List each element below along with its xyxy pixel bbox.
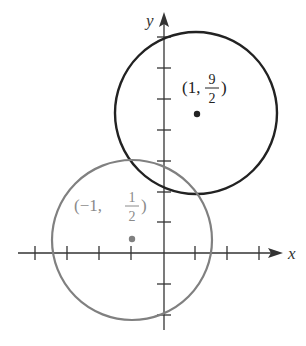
svg-text:1: 1 (129, 190, 136, 205)
x-axis-label: x (287, 244, 296, 263)
svg-text:): ) (141, 196, 147, 215)
black-center-label: (1, 9 2 ) (182, 72, 227, 106)
gray-center-label: (−1, 1 2 ) (74, 190, 147, 224)
coordinate-diagram: x y (1, 9 2 ) (−1, 1 2 ) (0, 0, 306, 346)
svg-text:): ) (221, 78, 227, 97)
y-axis-label: y (144, 11, 154, 30)
y-axis (157, 22, 171, 330)
black-center-dot (194, 111, 200, 117)
gray-center-dot (129, 236, 135, 242)
svg-text:(1,: (1, (182, 78, 200, 97)
svg-text:(−1,: (−1, (74, 196, 102, 215)
svg-text:2: 2 (129, 209, 136, 224)
svg-text:9: 9 (209, 72, 216, 87)
x-axis (18, 246, 272, 260)
svg-text:2: 2 (209, 91, 216, 106)
